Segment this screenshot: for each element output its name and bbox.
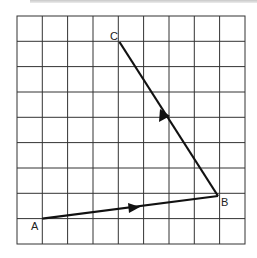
point-label-c: C [110, 30, 118, 42]
vector-ab [42, 196, 218, 219]
vector-grid-diagram: A B C [0, 0, 257, 258]
point-label-a: A [31, 220, 39, 232]
arrowhead-ab-icon [128, 203, 140, 213]
point-label-b: B [221, 196, 228, 208]
